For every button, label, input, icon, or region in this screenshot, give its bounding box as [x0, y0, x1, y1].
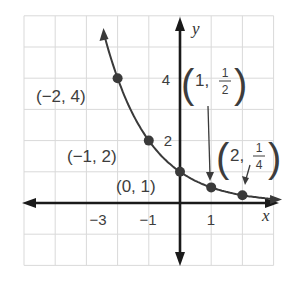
data-point — [175, 167, 185, 177]
data-point — [206, 182, 216, 192]
label-main: 2, — [230, 146, 244, 165]
x-tick-label: −1 — [139, 211, 156, 228]
paren-open: ( — [181, 62, 195, 106]
y-axis-label: y — [190, 19, 200, 38]
x-tick-label: 1 — [207, 211, 215, 228]
paren-close: ) — [234, 62, 247, 106]
fraction-numerator: 1 — [222, 66, 229, 80]
point-label-fraction: ( 2, 1 4 ) — [216, 136, 281, 180]
label-main: 1, — [195, 71, 209, 90]
y-tick-label: 4 — [162, 71, 170, 88]
exponential-graph: y x −3 −1 1 2 4 (−2, 4) (−1, 2) (0, 1) (… — [0, 0, 291, 283]
y-tick-label: 2 — [164, 132, 172, 149]
point-label: (0, 1) — [116, 177, 156, 196]
fraction-numerator: 1 — [256, 141, 263, 155]
leader-arrow — [206, 106, 214, 181]
arrowhead-icon — [206, 172, 214, 181]
point-label: (−2, 4) — [36, 87, 86, 106]
x-tick-label: −3 — [89, 211, 106, 228]
leader-arrow — [242, 165, 250, 185]
arrowhead-icon — [242, 176, 249, 185]
x-axis-label: x — [261, 206, 270, 225]
fraction-denominator: 2 — [222, 83, 229, 97]
point-label: (−1, 2) — [67, 147, 117, 166]
data-point — [144, 136, 154, 146]
curve-arrow-icon — [99, 28, 108, 41]
paren-close: ) — [268, 136, 281, 180]
y-axis-arrow-down-icon — [175, 252, 185, 266]
data-point — [237, 190, 247, 200]
data-point — [113, 73, 123, 83]
fraction-denominator: 4 — [256, 158, 263, 172]
point-label-fraction: ( 1, 1 2 ) — [181, 62, 247, 106]
paren-open: ( — [216, 136, 230, 180]
y-axis-arrow-up-icon — [175, 17, 185, 31]
